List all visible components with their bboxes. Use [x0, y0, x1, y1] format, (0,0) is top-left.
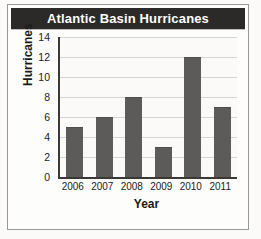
- x-axis-tick-label: 2008: [117, 181, 147, 192]
- bar-slot: [149, 37, 179, 177]
- bar-slot: [178, 37, 208, 177]
- x-axis-tick-label: 2009: [147, 181, 177, 192]
- chart-body: Hurricanes 02468101214 20062007200820092…: [11, 31, 245, 227]
- bar-slot: [90, 37, 120, 177]
- chart-title-banner: Atlantic Basin Hurricanes: [11, 8, 245, 29]
- y-axis-tick-label: 10: [38, 71, 50, 83]
- bar-slot: [119, 37, 149, 177]
- y-axis-tick-label: 2: [44, 151, 50, 163]
- y-axis-tick-labels: 02468101214: [10, 37, 56, 177]
- y-axis-tick-label: 12: [38, 51, 50, 63]
- bar-slot: [60, 37, 90, 177]
- x-axis-title: Year: [58, 197, 235, 211]
- bar: [155, 147, 172, 177]
- bar: [184, 57, 201, 177]
- plot-area: [58, 37, 237, 179]
- y-axis-tick-label: 8: [44, 91, 50, 103]
- bar: [66, 127, 83, 177]
- y-axis-tick-label: 0: [44, 171, 50, 183]
- bar: [96, 117, 113, 177]
- x-axis-tick-label: 2010: [176, 181, 206, 192]
- y-axis-tick-label: 6: [44, 111, 50, 123]
- y-axis-tick-label: 14: [38, 31, 50, 43]
- bar-slot: [208, 37, 238, 177]
- y-axis-tick-label: 4: [44, 131, 50, 143]
- x-axis-tick-label: 2006: [58, 181, 88, 192]
- chart-title: Atlantic Basin Hurricanes: [47, 11, 209, 26]
- bar: [214, 107, 231, 177]
- bar-series: [60, 37, 237, 177]
- x-axis-tick-label: 2011: [206, 181, 236, 192]
- bar: [125, 97, 142, 177]
- x-axis-tick-label: 2007: [88, 181, 118, 192]
- x-axis-tick-labels: 200620072008200920102011: [58, 181, 235, 192]
